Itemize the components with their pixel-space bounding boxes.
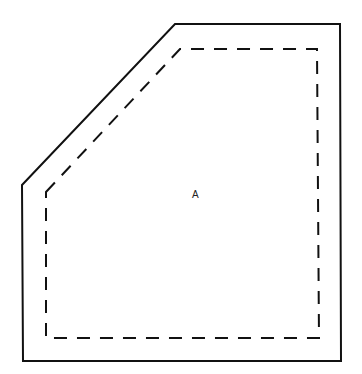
- outer-outline: [22, 24, 341, 361]
- inner-dashed-outline: [46, 49, 319, 338]
- region-label: A: [192, 189, 199, 200]
- diagram-canvas: [0, 0, 362, 374]
